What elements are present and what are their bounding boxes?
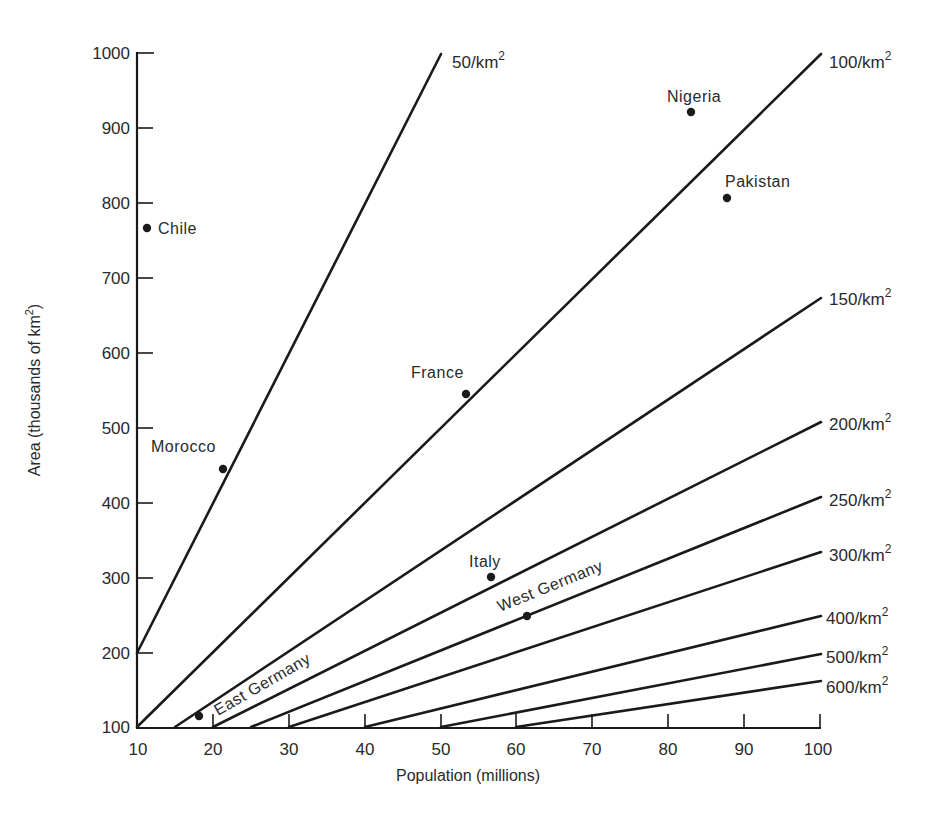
point-italy <box>487 573 495 581</box>
density-lines <box>137 54 821 727</box>
label-100: 100/km2 <box>829 49 892 72</box>
y-tick-200: 200 <box>102 644 130 663</box>
label-250: 250/km2 <box>829 487 892 510</box>
label-500: 500/km2 <box>826 644 889 667</box>
y-ticks <box>137 53 154 653</box>
x-tick-60: 60 <box>507 740 526 759</box>
y-tick-800: 800 <box>102 194 130 213</box>
x-tick-50: 50 <box>432 740 451 759</box>
y-tick-400: 400 <box>102 494 130 513</box>
svg-text:Area (thousands of km2): Area (thousands of km2) <box>23 304 43 476</box>
point-chile <box>143 224 151 232</box>
label-400: 400/km2 <box>826 605 889 628</box>
label-600: 600/km2 <box>826 674 889 697</box>
y-tick-500: 500 <box>102 419 130 438</box>
x-tick-labels: 10 20 30 40 50 60 70 80 90 100 <box>129 740 833 759</box>
label-50: 50/km2 <box>452 49 505 72</box>
x-axis-title: Population (millions) <box>396 767 540 784</box>
y-axis-title: Area (thousands of km2) <box>23 304 43 476</box>
y-tick-labels: 100 200 300 400 500 600 700 800 900 1000 <box>92 44 130 737</box>
x-tick-70: 70 <box>583 740 602 759</box>
label-italy: Italy <box>469 553 501 570</box>
population-area-chart: 100 200 300 400 500 600 700 800 900 1000… <box>0 0 940 825</box>
density-line-400 <box>365 616 821 727</box>
density-line-100 <box>137 54 821 727</box>
label-150: 150/km2 <box>829 286 892 309</box>
point-east-germany <box>195 712 203 720</box>
point-west-germany <box>523 612 531 620</box>
y-tick-600: 600 <box>102 344 130 363</box>
x-tick-20: 20 <box>204 740 223 759</box>
y-tick-700: 700 <box>102 269 130 288</box>
y-tick-300: 300 <box>102 569 130 588</box>
x-tick-10: 10 <box>129 740 148 759</box>
label-nigeria: Nigeria <box>667 88 721 105</box>
point-pakistan <box>723 194 731 202</box>
point-nigeria <box>687 108 695 116</box>
x-tick-90: 90 <box>735 740 754 759</box>
y-tick-100: 100 <box>102 718 130 737</box>
country-labels: Chile Morocco France Nigeria Pakistan It… <box>151 88 790 719</box>
label-morocco: Morocco <box>151 438 216 455</box>
point-france <box>462 390 470 398</box>
point-morocco <box>219 465 227 473</box>
x-tick-30: 30 <box>280 740 299 759</box>
y-tick-900: 900 <box>102 119 130 138</box>
density-line-50 <box>137 54 441 653</box>
x-tick-40: 40 <box>356 740 375 759</box>
y-tick-1000: 1000 <box>92 44 130 63</box>
x-tick-100: 100 <box>804 740 832 759</box>
label-france: France <box>411 364 464 381</box>
density-line-150 <box>175 298 821 727</box>
label-chile: Chile <box>158 220 197 237</box>
label-pakistan: Pakistan <box>725 173 790 190</box>
label-200: 200/km2 <box>829 411 892 434</box>
x-tick-80: 80 <box>659 740 678 759</box>
density-line-200 <box>213 422 821 727</box>
label-300: 300/km2 <box>829 542 892 565</box>
country-points <box>143 108 731 720</box>
